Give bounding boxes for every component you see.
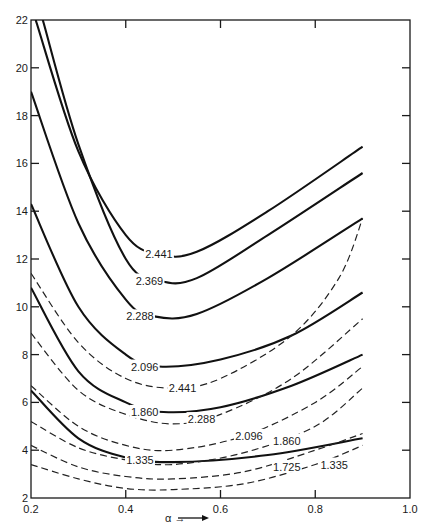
- x-tick-label: 1.0: [402, 503, 417, 515]
- curve-dashed-1-860: [31, 388, 363, 465]
- y-tick-label: 4: [22, 444, 28, 456]
- plot-border: [31, 20, 410, 498]
- curve-dashed-2-096: [31, 367, 363, 451]
- curve-label: 2.288: [126, 310, 154, 322]
- curve-label: 2.441: [145, 248, 173, 260]
- y-tick-label: 14: [16, 205, 28, 217]
- y-tick-label: 10: [16, 301, 28, 313]
- y-tick-label: 8: [22, 349, 28, 361]
- contour-chart: 2.4412.3692.2882.0961.8601.3352.4412.288…: [0, 0, 425, 528]
- curve-label: 2.441: [169, 382, 197, 394]
- x-tick-label: 0.8: [308, 503, 323, 515]
- x-axis-label: α →: [165, 512, 185, 524]
- curve-dashed-1-335: [31, 445, 363, 490]
- y-tick-label: 2: [22, 492, 28, 504]
- plot-frame: [31, 20, 410, 498]
- curve-label: 1.860: [131, 406, 159, 418]
- curve-solid-2-441: [36, 20, 363, 257]
- curve-label: 2.369: [136, 275, 164, 287]
- curve-label: 2.096: [235, 430, 263, 442]
- curve-label: 1.860: [273, 435, 301, 447]
- x-tick-label: 0.2: [23, 503, 38, 515]
- x-axis-arrowhead-icon: [202, 515, 209, 521]
- curve-label: 2.096: [131, 361, 159, 373]
- y-tick-label: 12: [16, 253, 28, 265]
- curve-dashed-2-288: [31, 319, 363, 424]
- curve-solid-2-369: [43, 20, 363, 283]
- curve-label: 1.335: [320, 459, 348, 471]
- x-tick-label: 0.4: [118, 503, 133, 515]
- y-tick-label: 18: [16, 110, 28, 122]
- curve-label: 1.725: [273, 461, 301, 473]
- y-tick-label: 20: [16, 62, 28, 74]
- y-tick-label: 16: [16, 157, 28, 169]
- y-tick-label: 6: [22, 396, 28, 408]
- curve-label: 1.335: [126, 454, 154, 466]
- curve-label: 2.288: [188, 413, 216, 425]
- y-tick-label: 22: [16, 14, 28, 26]
- x-tick-label: 0.6: [213, 503, 228, 515]
